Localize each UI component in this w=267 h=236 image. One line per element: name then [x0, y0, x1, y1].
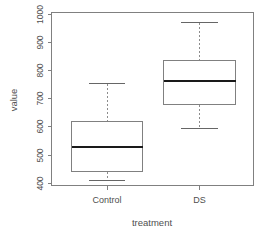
- y-axis-title: value: [8, 89, 19, 112]
- box-ds: [164, 61, 236, 105]
- box-group-ds: [164, 23, 236, 129]
- x-tick-label-control: Control: [92, 195, 121, 205]
- boxplot-canvas: 1000 900 800 700 600 500 400 value: [0, 0, 267, 236]
- boxplot-figure: 1000 900 800 700 600 500 400 value: [0, 0, 267, 236]
- y-tick-label-800: 800: [35, 63, 45, 77]
- x-axis-ticks: [107, 186, 200, 190]
- y-axis-ticks: [48, 15, 52, 184]
- y-axis-tick-labels: 1000 900 800 700 600 500 400: [35, 5, 45, 191]
- y-tick-label-400: 400: [35, 176, 45, 190]
- y-tick-label-900: 900: [35, 35, 45, 49]
- y-tick-label-700: 700: [35, 91, 45, 105]
- y-tick-label-1000: 1000: [35, 5, 45, 24]
- box-group-control: [72, 84, 143, 181]
- x-tick-label-ds: DS: [193, 195, 206, 205]
- y-tick-label-500: 500: [35, 148, 45, 162]
- x-axis-title: treatment: [132, 217, 172, 228]
- y-tick-label-600: 600: [35, 119, 45, 133]
